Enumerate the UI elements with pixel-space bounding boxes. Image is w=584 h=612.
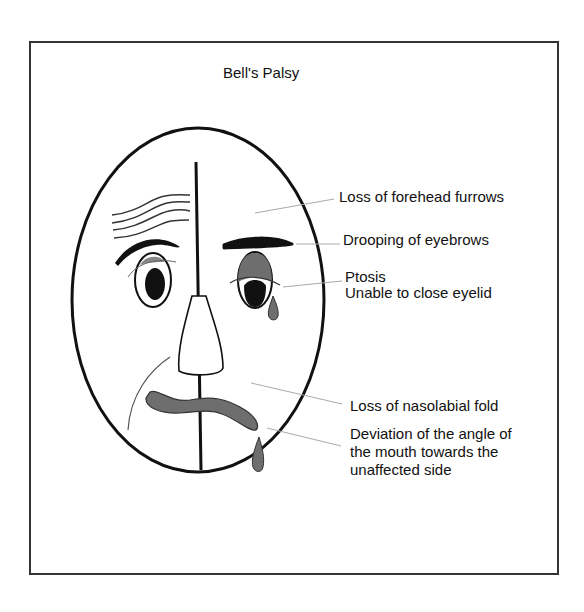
face-illustration (0, 0, 584, 612)
label-nasolabial-fold: Loss of nasolabial fold (350, 397, 498, 414)
label-drooping-eyebrows: Drooping of eyebrows (343, 231, 489, 248)
label-ptosis: Ptosis (345, 268, 386, 285)
label-unable-close-eyelid: Unable to close eyelid (345, 284, 492, 301)
label-mouth-deviation-2: the mouth towards the (350, 443, 498, 460)
label-mouth-deviation-1: Deviation of the angle of (350, 425, 512, 442)
label-mouth-deviation-3: unaffected side (350, 461, 451, 478)
label-forehead-furrows: Loss of forehead furrows (339, 188, 504, 205)
